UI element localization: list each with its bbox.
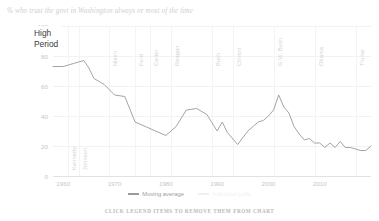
legend-item-individual-polls[interactable]: Individual polls xyxy=(198,191,251,197)
high-period-annotation: High Period xyxy=(30,26,62,52)
moving-average-line xyxy=(53,26,371,176)
x-tick-label-2010: 2010 xyxy=(313,180,327,187)
chart-title: % who trust the govt in Washington alway… xyxy=(7,7,193,15)
x-tick-label-2000: 2000 xyxy=(262,180,276,187)
y-tick-label-0: 0 xyxy=(22,173,48,180)
axis-baseline xyxy=(53,176,371,177)
x-tick-label-1980: 1980 xyxy=(159,180,173,187)
legend-swatch-icon xyxy=(128,193,139,194)
plot-area xyxy=(53,26,371,176)
y-tick-label-40: 40 xyxy=(22,113,48,120)
y-tick-label-80: 80 xyxy=(22,53,48,60)
trust-in-government-chart: % who trust the govt in Washington alway… xyxy=(0,0,379,221)
legend-hint: CLICK LEGEND ITEMS TO REMOVE THEM FROM C… xyxy=(0,208,379,214)
y-tick-label-60: 60 xyxy=(22,83,48,90)
legend-label: Moving average xyxy=(142,191,184,197)
legend-label: Individual polls xyxy=(212,191,251,197)
x-tick-label-1970: 1970 xyxy=(108,180,122,187)
chart-legend[interactable]: Moving averageIndividual polls xyxy=(0,191,379,197)
x-tick-label-1960: 1960 xyxy=(56,180,70,187)
annotation-line-2: Period xyxy=(34,39,58,50)
x-tick-label-1990: 1990 xyxy=(210,180,224,187)
y-tick-label-20: 20 xyxy=(22,143,48,150)
legend-item-moving-average[interactable]: Moving average xyxy=(128,191,184,197)
legend-swatch-icon xyxy=(198,193,209,194)
annotation-line-1: High xyxy=(34,28,58,39)
